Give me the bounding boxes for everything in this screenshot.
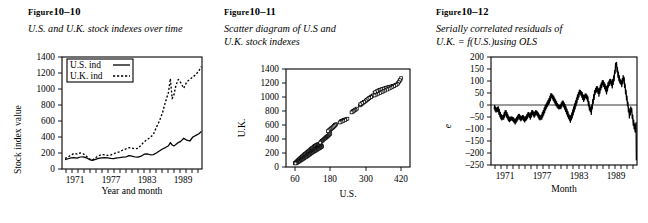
chart-residuals-over-time: e 200 150 100 50 0 –50 –100 –150 –200 –2…	[430, 46, 645, 201]
svg-text:0: 0	[274, 162, 279, 172]
svg-text:300: 300	[359, 174, 373, 184]
figure-10-11-caption: Scatter diagram of U.S and U.K. stock in…	[224, 23, 336, 48]
chart3-series-residuals	[494, 62, 636, 160]
svg-text:200: 200	[470, 52, 484, 62]
svg-text:1971: 1971	[496, 171, 515, 181]
chart1-x-tick-labels: 1971 1977 1983 1989	[66, 175, 193, 185]
svg-text:–250: –250	[464, 160, 484, 170]
svg-text:–50: –50	[469, 112, 484, 122]
figure-10-12-label: Figure10–12	[436, 6, 489, 17]
chart1-legend: U.S. ind U.K. ind	[67, 59, 133, 82]
svg-text:1200: 1200	[260, 78, 279, 88]
svg-text:1400: 1400	[36, 52, 55, 62]
svg-text:1971: 1971	[66, 175, 85, 185]
figures-page: Figure10–10 U.S. and U.K. stock indexes …	[0, 0, 648, 223]
figure-10-11-label: Figure10–11	[224, 6, 276, 17]
scatter-point	[359, 103, 362, 106]
chart2-y-tick-labels: 1400 1200 1000 800 600 400 200 0	[260, 64, 279, 172]
svg-text:1000: 1000	[36, 84, 55, 94]
scatter-point	[350, 111, 353, 114]
svg-text:–100: –100	[464, 124, 484, 134]
chart2-y-ticks	[282, 69, 286, 167]
chart3-y-axis-title: e	[442, 123, 453, 128]
svg-text:1989: 1989	[174, 175, 193, 185]
scatter-point	[319, 141, 322, 144]
svg-text:420: 420	[394, 174, 408, 184]
figure-label-number: 10–12	[461, 6, 488, 17]
svg-text:–150: –150	[464, 136, 484, 146]
svg-text:1983: 1983	[570, 171, 589, 181]
chart1-y-tick-labels: 1400 1200 1000 800 600 400 200 0	[36, 52, 55, 174]
chart2-points	[293, 77, 402, 165]
chart3-x-axis-title: Month	[551, 183, 577, 194]
figure-10-12-caption: Serially correlated residuals of U.K. = …	[436, 23, 562, 48]
figure-10-10-panel: Figure10–10 U.S. and U.K. stock indexes …	[0, 0, 212, 223]
scatter-point	[338, 121, 341, 124]
figure-label-prefix: Figure	[28, 7, 53, 17]
svg-text:50: 50	[475, 88, 485, 98]
svg-text:60: 60	[290, 174, 300, 184]
chart1-legend-label-uk: U.K. ind	[70, 71, 103, 81]
svg-text:0: 0	[479, 100, 484, 110]
chart1-x-ticks	[66, 169, 198, 173]
chart3-y-ticks	[487, 57, 491, 165]
chart1-x-axis-title: Year and month	[102, 185, 163, 196]
figure-label-prefix: Figure	[224, 7, 249, 17]
chart1-legend-label-us: U.S. ind	[70, 60, 101, 70]
svg-text:400: 400	[41, 132, 55, 142]
svg-text:400: 400	[265, 134, 279, 144]
chart-stock-indexes-over-time: Stock index value 1400 1200 1000 800 600…	[10, 46, 210, 196]
figure-label-number: 10–11	[249, 6, 276, 17]
chart2-y-axis-title: U.K.	[236, 119, 247, 138]
svg-text:200: 200	[41, 148, 55, 158]
chart1-y-ticks	[58, 57, 62, 169]
chart2-x-tick-labels: 60 180 300 420	[290, 174, 408, 184]
svg-text:1400: 1400	[260, 64, 279, 74]
chart1-y-axis-title: Stock index value	[12, 105, 23, 174]
figure-10-11-panel: Figure10–11 Scatter diagram of U.S and U…	[212, 0, 422, 223]
chart2-x-axis-title: U.S.	[339, 188, 356, 199]
svg-text:1200: 1200	[36, 68, 55, 78]
figure-10-10-label: Figure10–10	[28, 6, 81, 17]
svg-text:600: 600	[265, 120, 279, 130]
scatter-point	[373, 94, 376, 97]
svg-text:1000: 1000	[260, 92, 279, 102]
chart1-series-us	[65, 131, 201, 160]
svg-text:800: 800	[41, 100, 55, 110]
figure-10-12-panel: Figure10–12 Serially correlated residual…	[422, 0, 648, 223]
svg-text:200: 200	[265, 148, 279, 158]
svg-text:1977: 1977	[533, 171, 552, 181]
figure-10-10-caption: U.S. and U.K. stock indexes over time	[28, 23, 182, 36]
svg-text:800: 800	[265, 106, 279, 116]
chart-scatter-us-uk: U.K. 1400 1200 1000 800 600 400 200 0	[218, 46, 418, 206]
figure-label-prefix: Figure	[436, 7, 461, 17]
chart3-x-tick-labels: 1971 1977 1983 1989	[496, 171, 626, 181]
scatter-point	[327, 130, 330, 133]
svg-text:100: 100	[470, 76, 484, 86]
svg-text:180: 180	[323, 174, 337, 184]
svg-text:1983: 1983	[138, 175, 157, 185]
chart3-x-ticks	[495, 165, 633, 169]
chart3-y-tick-labels: 200 150 100 50 0 –50 –100 –150 –200 –250	[464, 52, 484, 170]
svg-text:1977: 1977	[102, 175, 121, 185]
svg-text:600: 600	[41, 116, 55, 126]
figure-label-number: 10–10	[53, 6, 80, 17]
svg-text:1989: 1989	[607, 171, 626, 181]
chart2-x-ticks	[295, 167, 401, 171]
scatter-point	[294, 162, 297, 165]
svg-text:0: 0	[50, 164, 55, 174]
svg-text:–200: –200	[464, 148, 484, 158]
svg-text:150: 150	[470, 64, 484, 74]
